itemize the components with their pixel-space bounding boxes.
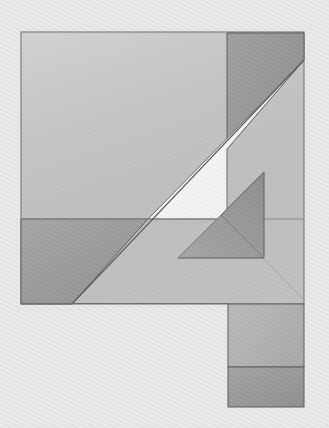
artwork-canvas: Abstract geometric composition of overla…: [0, 0, 329, 428]
bottom-right-rectangle-upper: [228, 304, 304, 367]
bottom-right-rectangle-lower: [228, 367, 304, 407]
geometric-composition-svg: [0, 0, 329, 428]
